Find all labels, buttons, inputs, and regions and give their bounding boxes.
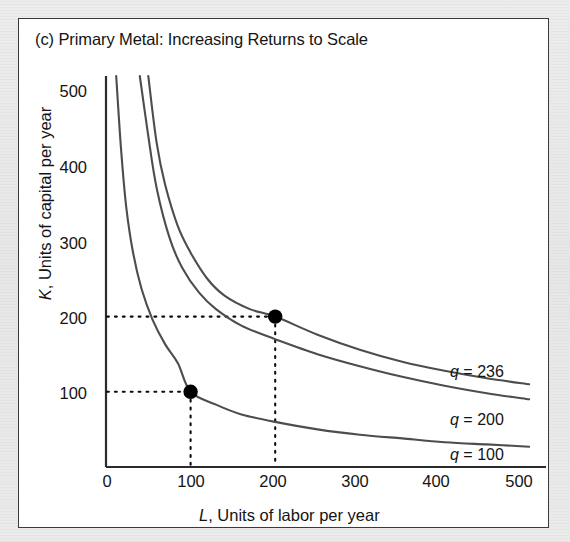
marker-point-low[interactable] [183,385,197,399]
curve-q-200 [140,76,529,399]
x-tick-label-200: 200 [250,472,296,491]
curve-q-236 [148,76,529,384]
q-variable-symbol: q [450,411,459,428]
y-axis-variable-symbol: K [36,289,54,300]
x-tick-label-300: 300 [332,472,378,491]
x-tick-label-400: 400 [413,472,459,491]
x-axis-title-text: , Units of labor per year [208,506,380,524]
y-axis-title: K, Units of capital per year [36,54,55,354]
y-axis-title-text: , Units of capital per year [36,107,54,290]
y-tick-label-100: 100 [39,384,87,403]
marker-point-high[interactable] [268,309,282,323]
curve-label-q-236: q = 236 [450,363,504,381]
curve-label-q-200: q = 200 [450,411,504,429]
curve-label-q-236-value: = 236 [459,363,504,380]
data-point-markers [183,309,282,399]
figure-panel: (c) Primary Metal: Increasing Returns to… [18,18,549,528]
x-axis-title: L, Units of labor per year [199,506,380,525]
x-tick-label-0: 0 [84,472,130,491]
curve-label-q-100: q = 100 [450,446,504,464]
q-variable-symbol: q [450,446,459,463]
curve-label-q-100-value: = 100 [459,446,504,463]
x-tick-label-100: 100 [168,472,214,491]
plot-area: 500 400 300 200 100 0 100 200 300 400 50… [19,19,550,529]
x-tick-label-500: 500 [496,472,542,491]
curve-label-q-200-value: = 200 [459,411,504,428]
q-variable-symbol: q [450,363,459,380]
axes [106,76,546,467]
x-axis-variable-symbol: L [199,506,208,524]
